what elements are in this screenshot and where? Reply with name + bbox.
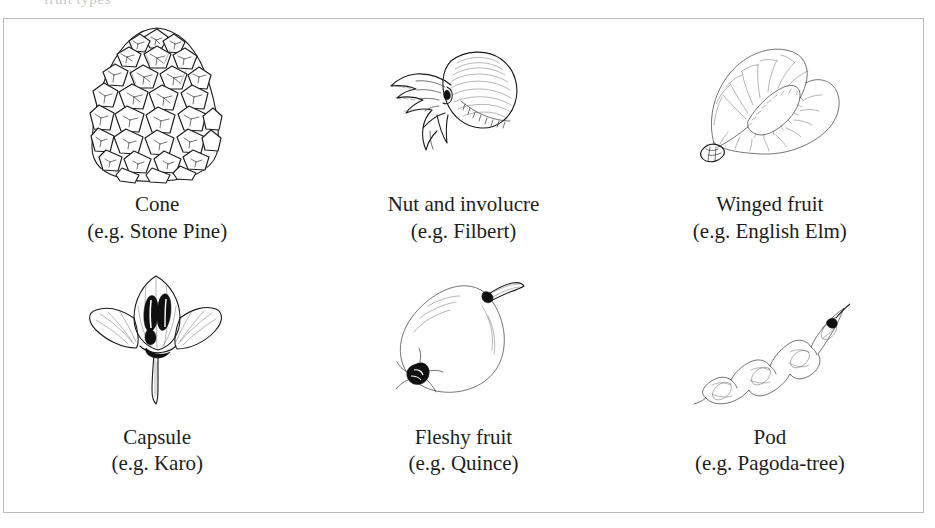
pagoda-tree-pod-illustration: [617, 266, 923, 406]
plate-frame: Cone (e.g. Stone Pine): [3, 18, 924, 513]
illustration-page: fruit types: [0, 0, 935, 528]
figure-item-cone: Cone (e.g. Stone Pine): [4, 19, 310, 266]
caption-fleshy-fruit: Fleshy fruit (e.g. Quince): [408, 424, 518, 478]
caption-nut-and-involucre: Nut and involucre (e.g. Filbert): [388, 191, 540, 245]
caption-name: Capsule: [111, 424, 203, 451]
caption-example: (e.g. Pagoda-tree): [695, 450, 845, 477]
caption-example: (e.g. English Elm): [693, 218, 847, 245]
caption-winged-fruit: Winged fruit (e.g. English Elm): [693, 191, 847, 245]
quince-fruit-illustration: [310, 266, 616, 406]
caption-pod: Pod (e.g. Pagoda-tree): [695, 424, 845, 478]
caption-name: Pod: [695, 424, 845, 451]
karo-capsule-illustration: [4, 266, 310, 406]
figure-item-pod: Pod (e.g. Pagoda-tree): [617, 266, 923, 513]
page-bleed-text: fruit types: [0, 0, 935, 7]
figure-item-winged-fruit: Winged fruit (e.g. English Elm): [617, 19, 923, 266]
caption-capsule: Capsule (e.g. Karo): [111, 424, 203, 478]
caption-example: (e.g. Quince): [408, 450, 518, 477]
figure-item-capsule: Capsule (e.g. Karo): [4, 266, 310, 513]
figure-item-nut-and-involucre: Nut and involucre (e.g. Filbert): [310, 19, 616, 266]
caption-example: (e.g. Filbert): [388, 218, 540, 245]
caption-cone: Cone (e.g. Stone Pine): [87, 191, 227, 245]
caption-name: Nut and involucre: [388, 191, 540, 218]
pine-cone-illustration: [4, 19, 310, 189]
caption-name: Fleshy fruit: [408, 424, 518, 451]
caption-name: Cone: [87, 191, 227, 218]
hazelnut-involucre-illustration: [310, 19, 616, 189]
illustration-grid: Cone (e.g. Stone Pine): [4, 19, 923, 512]
elm-samara-illustration: [617, 19, 923, 189]
caption-name: Winged fruit: [693, 191, 847, 218]
caption-example: (e.g. Karo): [111, 450, 203, 477]
caption-example: (e.g. Stone Pine): [87, 218, 227, 245]
figure-item-fleshy-fruit: Fleshy fruit (e.g. Quince): [310, 266, 616, 513]
